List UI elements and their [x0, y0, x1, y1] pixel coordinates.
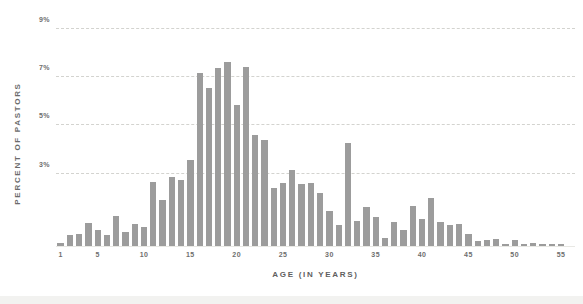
x-tick-label: 40	[418, 251, 427, 258]
histogram-chart: PERCENT OF PASTORS 9%7%5%3% 151015202530…	[0, 0, 583, 304]
x-tick-label: 25	[279, 251, 288, 258]
bar	[326, 211, 332, 246]
x-tick-label: 1	[58, 251, 62, 258]
bar	[224, 62, 230, 246]
bar	[354, 221, 360, 246]
x-tick-label: 5	[96, 251, 100, 258]
plot-area: 9%7%5%3%	[56, 14, 575, 246]
bar	[67, 235, 73, 246]
bar	[363, 207, 369, 246]
bar	[336, 225, 342, 246]
x-tick-label: 35	[371, 251, 380, 258]
bar	[132, 224, 138, 246]
bar	[234, 105, 240, 246]
bar	[85, 223, 91, 246]
bar	[465, 234, 471, 246]
bar	[437, 222, 443, 246]
bar	[280, 183, 286, 246]
x-tick-label: 30	[325, 251, 334, 258]
bar	[289, 170, 295, 246]
x-tick-label: 10	[140, 251, 149, 258]
bar	[410, 206, 416, 246]
x-tick-label: 15	[186, 251, 195, 258]
bar	[141, 227, 147, 246]
x-tick-label: 50	[510, 251, 519, 258]
x-tick-label: 45	[464, 251, 473, 258]
bar	[493, 239, 499, 246]
x-axis-line	[56, 246, 575, 247]
bar	[308, 183, 314, 246]
bar	[169, 177, 175, 246]
bar	[419, 219, 425, 246]
bar	[215, 68, 221, 246]
bar	[373, 217, 379, 246]
bar	[150, 182, 156, 246]
bar	[76, 234, 82, 246]
x-tick-label: 20	[232, 251, 241, 258]
bar	[104, 235, 110, 246]
bar	[252, 135, 258, 246]
bar	[382, 238, 388, 246]
y-tick-label: 9%	[39, 16, 50, 23]
bar	[95, 230, 101, 246]
bar	[206, 88, 212, 246]
x-axis-title: AGE (IN YEARS)	[56, 270, 575, 279]
x-axis-ticks: 1510152025303540455055	[56, 251, 575, 265]
y-axis-title: PERCENT OF PASTORS	[8, 48, 26, 238]
bottom-edge-strip	[0, 296, 583, 304]
y-tick-label: 7%	[39, 64, 50, 71]
bar	[113, 216, 119, 246]
bar	[197, 73, 203, 246]
bar	[345, 143, 351, 246]
bar	[178, 180, 184, 246]
bar	[428, 198, 434, 246]
bar	[447, 225, 453, 246]
bar	[187, 160, 193, 246]
bar	[271, 188, 277, 246]
y-tick-label: 5%	[39, 112, 50, 119]
x-tick-label: 55	[557, 251, 566, 258]
bar	[243, 67, 249, 246]
bar	[298, 184, 304, 246]
bar	[317, 193, 323, 246]
bar	[159, 200, 165, 246]
bar	[456, 224, 462, 246]
y-axis-title-label: PERCENT OF PASTORS	[13, 82, 22, 204]
y-tick-label: 3%	[39, 161, 50, 168]
bar	[400, 230, 406, 246]
bar	[122, 232, 128, 247]
bar-series	[56, 14, 575, 246]
bar	[391, 222, 397, 246]
bar	[261, 140, 267, 246]
